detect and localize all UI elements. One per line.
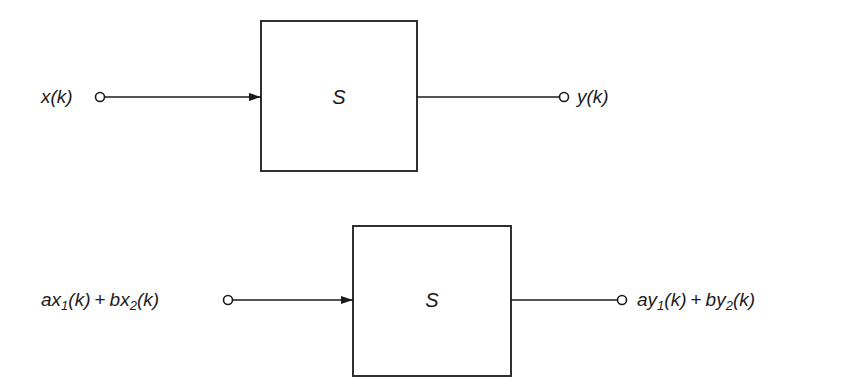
output-plus: + xyxy=(686,289,705,310)
block-diagram-canvas xyxy=(0,0,847,392)
top-input-node-icon xyxy=(96,93,105,102)
input-var-x1: x xyxy=(52,289,62,310)
top-output-var: y xyxy=(577,86,587,107)
top-input-var: x xyxy=(41,86,51,107)
top-output-arg: (k) xyxy=(587,86,609,107)
input-sub-2: 2 xyxy=(130,298,137,313)
bottom-input-label: ax1(k)+bx2(k) xyxy=(41,289,159,311)
output-var-y2: y xyxy=(716,289,726,310)
bottom-input-node-icon xyxy=(224,296,233,305)
output-arg-1: (k) xyxy=(664,289,686,310)
output-sub-2: 2 xyxy=(726,298,733,313)
top-output-node-icon xyxy=(560,93,569,102)
input-var-x2: x xyxy=(120,289,130,310)
input-plus: + xyxy=(90,289,109,310)
top-output-label: y(k) xyxy=(577,86,609,108)
top-input-arg: (k) xyxy=(51,86,73,107)
bottom-output-label: ay1(k)+by2(k) xyxy=(637,289,755,311)
output-arg-2: (k) xyxy=(733,289,755,310)
output-coef-a: a xyxy=(637,289,648,310)
top-system-label: S xyxy=(332,86,345,108)
output-var-y1: y xyxy=(648,289,658,310)
bottom-system-label: S xyxy=(425,289,438,311)
input-coef-b: b xyxy=(110,289,121,310)
input-coef-a: a xyxy=(41,289,52,310)
input-arg-2: (k) xyxy=(137,289,159,310)
bottom-output-node-icon xyxy=(618,296,627,305)
top-input-label: x(k) xyxy=(41,86,73,108)
input-arg-1: (k) xyxy=(68,289,90,310)
output-coef-b: b xyxy=(706,289,717,310)
